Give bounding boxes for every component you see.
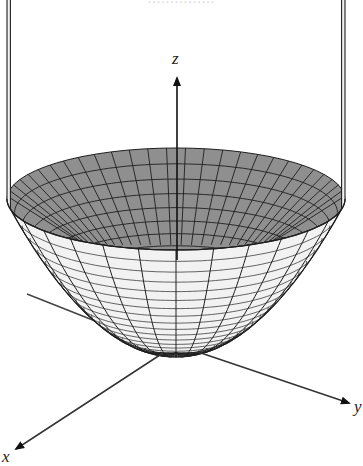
x-axis-label: x (2, 448, 10, 465)
y-axis (198, 352, 349, 403)
x-axis (16, 353, 163, 449)
y-axis-label: y (354, 398, 362, 415)
z-axis-label: z (172, 50, 179, 67)
